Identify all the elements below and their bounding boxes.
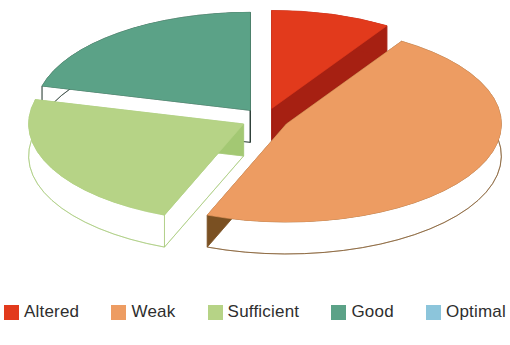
legend-swatch-good xyxy=(331,305,346,320)
legend-item-good: Good xyxy=(331,302,393,322)
chart-legend: AlteredWeakSufficientGoodOptimal xyxy=(0,302,510,322)
pie-chart xyxy=(0,0,510,300)
legend-swatch-optimal xyxy=(426,305,441,320)
legend-label: Weak xyxy=(131,302,175,322)
legend-item-sufficient: Sufficient xyxy=(208,302,300,322)
legend-swatch-altered xyxy=(4,305,19,320)
legend-swatch-weak xyxy=(111,305,126,320)
legend-label: Altered xyxy=(24,302,79,322)
pie-slice-sufficient-top xyxy=(29,100,244,215)
pie-slice-good-top xyxy=(42,12,250,110)
legend-swatch-sufficient xyxy=(208,305,223,320)
legend-item-weak: Weak xyxy=(111,302,175,322)
legend-label: Good xyxy=(351,302,393,322)
pie-chart-area xyxy=(0,0,510,300)
legend-item-altered: Altered xyxy=(4,302,79,322)
pie-chart-figure: AlteredWeakSufficientGoodOptimal xyxy=(0,0,510,345)
legend-item-optimal: Optimal xyxy=(426,302,506,322)
legend-label: Optimal xyxy=(446,302,506,322)
legend-label: Sufficient xyxy=(228,302,300,322)
